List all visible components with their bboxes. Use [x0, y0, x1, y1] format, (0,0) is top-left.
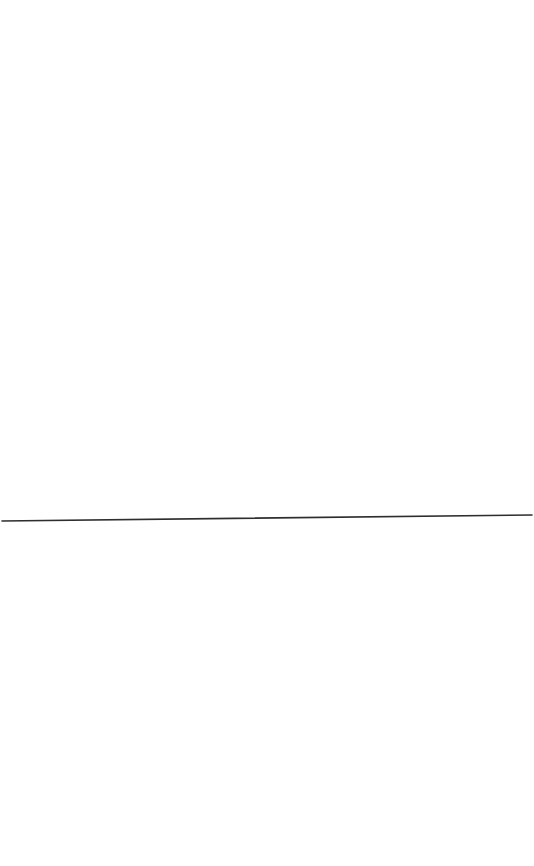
- horizontal-line: [2, 515, 532, 521]
- blank-canvas: [0, 0, 534, 866]
- horizontal-line-drawing: [0, 0, 534, 866]
